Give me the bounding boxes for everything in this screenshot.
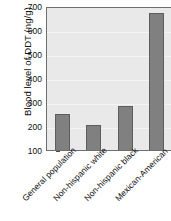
y-tick-label: 300 bbox=[20, 99, 42, 107]
bar bbox=[55, 114, 70, 151]
y-tick-label: 600 bbox=[20, 27, 42, 35]
plot-area bbox=[46, 7, 171, 151]
x-axis-tick-labels: General populationNon-hispanic whiteNon-… bbox=[0, 152, 171, 221]
x-tick-label: Non-hispanic black bbox=[82, 145, 140, 203]
y-tick-label: 200 bbox=[20, 123, 42, 131]
y-axis-tick-labels: 100200300400500600700 bbox=[14, 0, 42, 160]
x-tick-label: General population bbox=[20, 145, 78, 203]
bar bbox=[118, 106, 133, 151]
x-tick-label: Non-hispanic white bbox=[51, 145, 109, 203]
y-tick-label: 500 bbox=[20, 51, 42, 59]
y-tick-label: 400 bbox=[20, 75, 42, 83]
chart-figure: Blood level of DDT (ng/g) 10020030040050… bbox=[0, 0, 171, 221]
bar bbox=[149, 13, 164, 151]
y-tick-label: 700 bbox=[20, 3, 42, 11]
